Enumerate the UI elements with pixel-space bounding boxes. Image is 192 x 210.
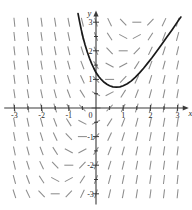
slope-field-segment (162, 18, 166, 26)
slope-field-segment (66, 133, 72, 140)
slope-field-segment (177, 175, 178, 184)
slope-field-segment (163, 146, 164, 155)
x-tick-label-2: 2 (148, 111, 152, 120)
origin-label: 0 (89, 111, 93, 120)
slope-field-segment (108, 175, 110, 184)
slope-field-segment (122, 189, 124, 198)
y-tick-label-neg1: -1 (87, 133, 94, 142)
slope-field-segment (163, 75, 165, 84)
slope-field-segment (136, 189, 137, 198)
slope-field-segment (41, 61, 43, 70)
slope-field-segment (14, 46, 15, 55)
slope-field-segment (136, 175, 138, 184)
slope-field-segment (150, 175, 151, 184)
slope-field-segment (27, 161, 30, 170)
slope-field-segment (41, 89, 43, 98)
slope-field-segment (122, 132, 125, 141)
slope-field-segment (163, 132, 164, 141)
slope-field-segment (107, 33, 112, 41)
slope-field-segment (119, 34, 127, 38)
slope-field-segment (81, 18, 83, 27)
slope-field-segment (150, 189, 151, 198)
slope-field-segment (81, 47, 84, 56)
slope-field-segment (134, 48, 140, 55)
axis-labels-layer: -3-2-10123-3-2-1123xy (11, 8, 192, 199)
x-tick-label-neg2: -2 (38, 111, 45, 120)
y-tick-label-2: 2 (89, 47, 93, 56)
y-tick-label-neg3: -3 (87, 190, 94, 199)
slope-field-segment (122, 161, 124, 170)
slope-field-segment (54, 32, 56, 41)
slope-field-segment (54, 75, 56, 84)
slope-field-segment (68, 61, 70, 70)
slope-field-segment (13, 147, 15, 156)
slope-field-segment (107, 119, 112, 127)
slope-field-segment (27, 18, 28, 27)
slope-field-segment (67, 89, 70, 97)
slope-field-segment (108, 161, 111, 170)
slope-field-segment (14, 18, 15, 27)
y-tick-label-1: 1 (89, 75, 93, 84)
slope-field-segment (40, 161, 44, 169)
slope-field-segment (27, 147, 29, 156)
slope-field-segment (41, 18, 42, 27)
slope-field-segment (40, 147, 43, 155)
slope-field-segment (55, 18, 56, 27)
x-tick-label-neg3: -3 (11, 111, 18, 120)
slope-field-segment (136, 161, 138, 170)
slope-field-segment (80, 190, 84, 198)
slope-field-segment (135, 89, 138, 97)
slope-field-segment (66, 119, 71, 127)
slope-field-segment (107, 48, 113, 55)
axes-layer (4, 11, 189, 205)
slope-field-segment (51, 177, 59, 181)
slope-field-segment (122, 175, 124, 184)
x-axis-label: x (187, 108, 192, 118)
slope-field-segment (163, 161, 164, 170)
slope-field-segment (13, 161, 15, 170)
slope-field-segment (27, 32, 28, 41)
slope-field-segment (163, 89, 165, 98)
slope-field-segment (177, 46, 179, 55)
x-tick-label-neg1: -1 (65, 111, 72, 120)
slope-field-segment (53, 147, 58, 155)
slope-field-segment (177, 75, 179, 84)
slope-field-segment (27, 75, 28, 84)
slope-field-segment (177, 189, 178, 198)
slope-field-segment (177, 89, 179, 98)
slope-field-segment (52, 162, 58, 169)
slope-field-segment (106, 63, 114, 67)
slope-field-segment (177, 146, 178, 155)
slope-field-segment (78, 149, 86, 153)
slope-field-segment (53, 133, 57, 141)
slope-field-segment (148, 33, 153, 41)
slope-field-segment (54, 61, 56, 70)
slope-field-segment (68, 18, 70, 27)
slope-field-segment (67, 75, 70, 84)
slope-field-segment (108, 18, 112, 26)
slope-field-segment (109, 189, 111, 198)
slope-field-segment (14, 32, 15, 41)
slope-field-segment (80, 176, 85, 184)
slope-field-segment (14, 132, 16, 141)
slope-field-segment (122, 147, 124, 156)
slope-field-segment (147, 19, 153, 26)
slope-field-segment (136, 118, 138, 127)
x-tick-label-1: 1 (121, 111, 125, 120)
slope-field-segment (27, 46, 28, 55)
slope-field-segment (148, 47, 152, 55)
slope-field-segment (26, 190, 30, 198)
x-tick-label-3: 3 (176, 111, 180, 120)
slope-field-segment (134, 61, 139, 69)
slope-field-segment (119, 63, 127, 67)
y-tick-label-neg2: -2 (87, 161, 94, 170)
slope-field-segment (78, 120, 86, 124)
slope-field-segment (136, 147, 138, 156)
slope-field-segment (163, 118, 165, 127)
slope-field-segment (66, 191, 72, 198)
plot-canvas: -3-2-10123-3-2-1123xy (0, 0, 192, 210)
slope-field-segment (39, 176, 44, 184)
slope-field-segment (13, 190, 16, 199)
slope-field-segment (14, 75, 15, 84)
slope-field-segment (65, 177, 73, 181)
